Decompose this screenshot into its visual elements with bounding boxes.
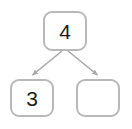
- tree-node-left-child[interactable]: 3: [10, 79, 54, 117]
- edge-root-to-right: [68, 51, 98, 75]
- tree-diagram: 4 3: [0, 0, 132, 129]
- tree-node-root[interactable]: 4: [43, 11, 87, 51]
- tree-node-right-child[interactable]: [76, 79, 120, 117]
- edge-root-to-left: [33, 51, 63, 75]
- tree-node-root-label: 4: [59, 21, 71, 42]
- tree-node-left-child-label: 3: [26, 88, 38, 109]
